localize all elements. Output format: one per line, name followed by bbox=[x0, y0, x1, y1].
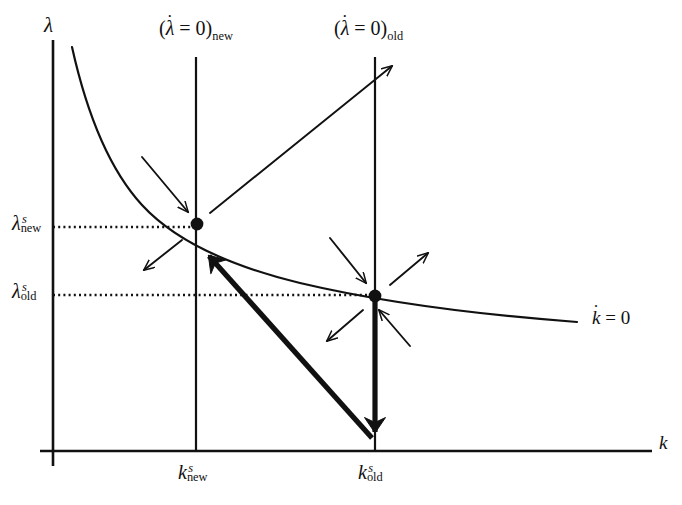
saddle-path-arrow-to-new-ss bbox=[209, 256, 372, 438]
y-axis-label: λ bbox=[44, 15, 53, 36]
arrow-ne-from-old-ss bbox=[390, 253, 428, 285]
steady-state-dots bbox=[191, 218, 382, 303]
arrow-sw-from-new-ss bbox=[144, 240, 182, 270]
old-steady-state-dot bbox=[369, 290, 382, 303]
lambda-dot-accent-old: λ̇ bbox=[341, 18, 350, 38]
x-tick-k-s-new-affix: snew bbox=[187, 459, 208, 484]
lambda-dot-zero-new-label: (λ̇ = 0)new bbox=[159, 18, 233, 38]
arrow-nw-into-new-ss bbox=[142, 157, 188, 212]
dynamics-arrows bbox=[142, 66, 428, 346]
y-tick-lambda-s-old-base: λ bbox=[12, 280, 21, 302]
x-tick-k-s-new-base: k bbox=[178, 461, 187, 483]
phase-diagram-canvas bbox=[0, 0, 682, 505]
x-tick-k-s-old-base: k bbox=[358, 461, 367, 483]
lambda-dot-accent-new: λ̇ bbox=[166, 18, 175, 38]
x-tick-k-s-new: ksnew bbox=[178, 460, 208, 485]
lambda-dot-zero-new-prefix: ( bbox=[159, 17, 166, 39]
k-dot-zero-locus bbox=[72, 47, 577, 322]
phase-diagram-figure: λ k (λ̇ = 0)new (λ̇ = 0)old k̇ = 0 λsnew… bbox=[0, 0, 682, 505]
lambda-dot-zero-new-relation: = 0) bbox=[174, 17, 212, 39]
x-axis-label: k bbox=[659, 433, 667, 452]
k-dot-accent: k̇ bbox=[592, 308, 600, 327]
lambda-dot-zero-old-prefix: ( bbox=[334, 17, 341, 39]
arrow-nw-into-old-ss bbox=[330, 238, 366, 283]
y-tick-lambda-s-new: λsnew bbox=[12, 211, 41, 236]
arrow-se-into-old-ss bbox=[379, 310, 410, 346]
x-tick-k-s-old: ksold bbox=[358, 460, 383, 485]
k-dot-zero-label: k̇ = 0 bbox=[592, 308, 630, 327]
k-dot-zero-relation: = 0 bbox=[600, 307, 630, 328]
lambda-dot-zero-old-relation: = 0) bbox=[349, 17, 387, 39]
lambda-dot-zero-old-subscript: old bbox=[387, 29, 403, 43]
new-steady-state-dot bbox=[191, 218, 204, 231]
x-tick-k-s-old-affix: sold bbox=[367, 459, 383, 484]
lambda-dot-zero-new-subscript: new bbox=[212, 29, 233, 43]
y-tick-lambda-s-old-affix: sold bbox=[21, 278, 37, 303]
y-tick-lambda-s-new-base: λ bbox=[12, 212, 21, 234]
y-tick-lambda-s-old: λsold bbox=[12, 279, 37, 304]
arrow-sw-from-old-ss bbox=[327, 310, 363, 341]
y-tick-lambda-s-new-affix: snew bbox=[21, 210, 42, 235]
lambda-dot-zero-old-label: (λ̇ = 0)old bbox=[334, 18, 403, 38]
transition-arrows bbox=[209, 256, 375, 438]
arrow-ne-saddle-unstable bbox=[210, 66, 392, 213]
